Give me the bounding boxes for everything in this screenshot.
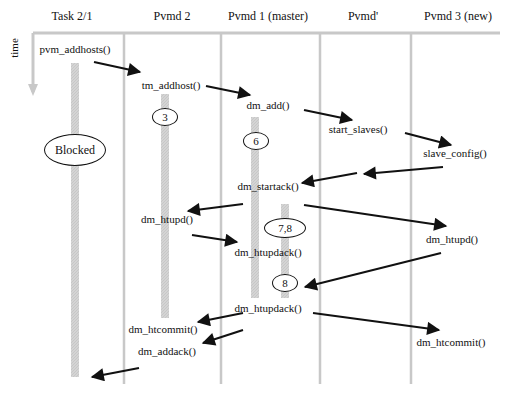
time-axis-label: time — [8, 38, 20, 58]
message-label: dm_htupd() — [426, 233, 478, 245]
message-label: dm_startack() — [237, 180, 298, 192]
state-8: 8 — [272, 274, 298, 292]
sequence-diagram: time Task 2/1 Pvmd 2 Pvmd 1 (master) Pvm… — [0, 0, 509, 399]
message-label: dm_htupd() — [141, 213, 193, 225]
message-label: pvm_addhosts() — [40, 43, 111, 55]
message-label: dm_addack() — [138, 345, 196, 357]
message-label: dm_htcommit() — [416, 336, 485, 348]
message-label: tm_addhost() — [142, 79, 201, 91]
state-6: 6 — [243, 132, 269, 150]
time-arrow-icon — [28, 84, 38, 96]
message-label: slave_config() — [423, 147, 487, 159]
column-header-pvmd1: Pvmd 1 (master) — [228, 9, 308, 24]
message-label: start_slaves() — [329, 123, 388, 135]
state-7-8: 7,8 — [264, 218, 306, 238]
state-3: 3 — [152, 108, 178, 126]
column-header-pvmd2: Pvmd 2 — [153, 9, 190, 24]
column-header-task: Task 2/1 — [52, 9, 93, 24]
message-label: dm_htupdack() — [234, 302, 301, 314]
state-blocked: Blocked — [44, 134, 106, 166]
message-label: dm_add() — [247, 99, 290, 111]
message-label: dm_htcommit() — [128, 323, 197, 335]
message-label: dm_htupdack() — [234, 246, 301, 258]
column-header-pvmd-prime: Pvmd' — [348, 9, 378, 24]
column-header-pvmd3: Pvmd 3 (new) — [424, 9, 492, 24]
